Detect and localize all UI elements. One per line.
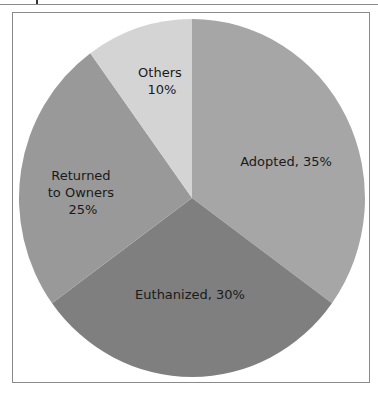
slice-label-euthanized: Euthanized, 30% [135,287,245,302]
slice-label-adopted: Adopted, 35% [240,154,332,169]
pie-chart: Adopted, 35% Euthanized, 30% Returned to… [0,0,378,394]
